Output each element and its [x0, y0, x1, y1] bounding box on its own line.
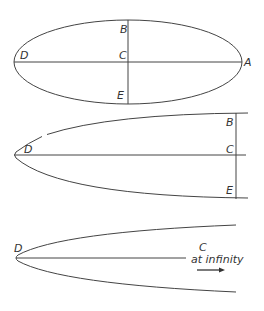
label-at-infinity: at infinity [191, 253, 244, 266]
label-B: B [226, 116, 234, 129]
label-E: E [226, 184, 233, 197]
label-B: B [120, 23, 128, 36]
label-E: E [117, 89, 124, 102]
label-C: C [119, 49, 127, 62]
label-C: C [226, 143, 234, 156]
label-D: D [14, 242, 22, 255]
label-D: D [24, 143, 32, 156]
label-A: A [243, 56, 252, 69]
elongated-curve-upper [47, 113, 248, 135]
arrow-right-icon [197, 268, 225, 273]
conic-sections-diagram: B C D E A B C D E D C at infinity [0, 0, 264, 311]
figure-elongated-ellipse: B C D E [14, 113, 248, 199]
label-D: D [20, 49, 28, 62]
figure-ellipse: B C D E A [14, 20, 252, 104]
figure-parabola: D C at infinity [14, 225, 244, 292]
elongated-curve-lower [15, 137, 249, 199]
